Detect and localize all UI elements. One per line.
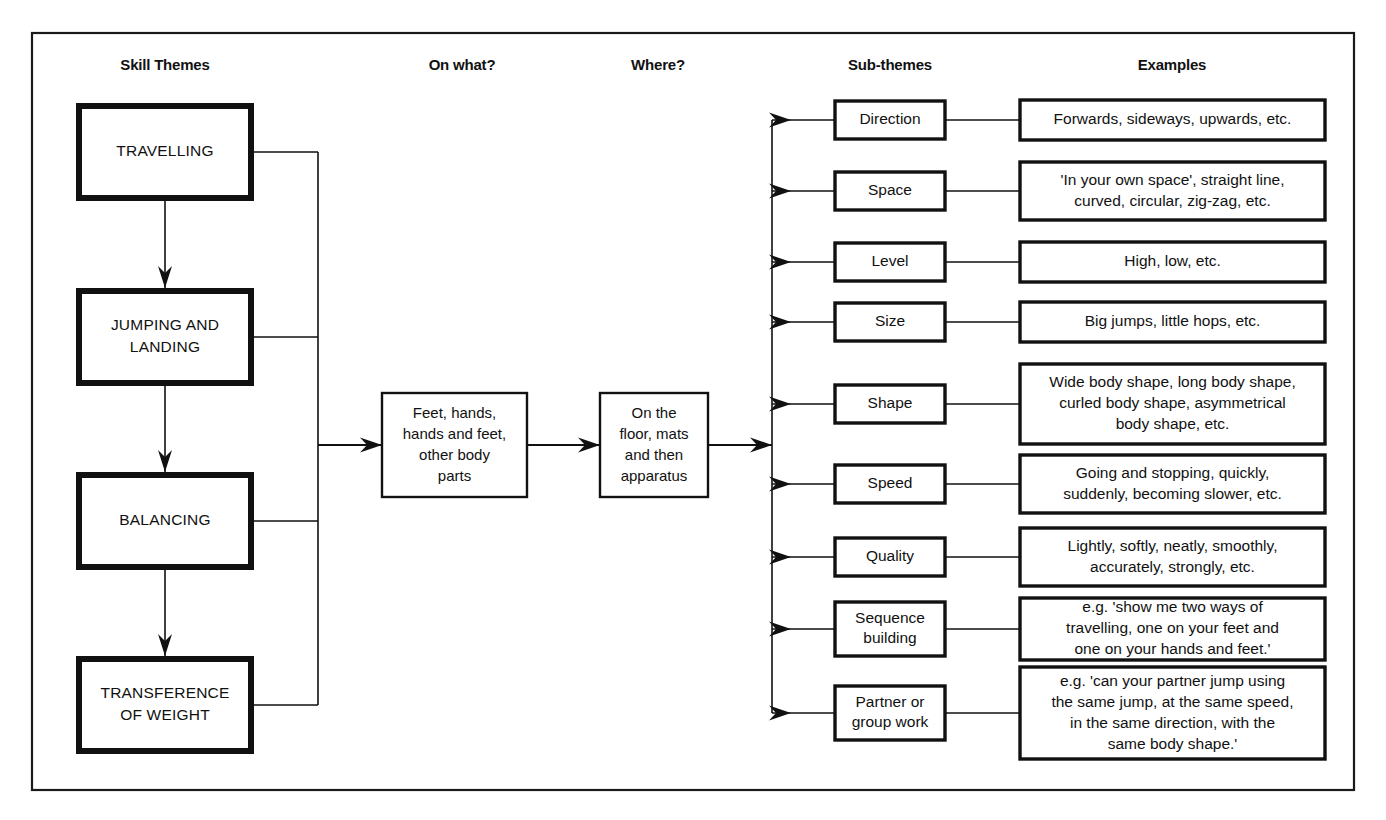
sub-theme-label-direction-line: Direction [859, 110, 920, 127]
example-label-shape-line: body shape, etc. [1116, 415, 1230, 432]
skill-theme-label-balancing: BALANCING [119, 511, 210, 528]
example-label-shape-line: Wide body shape, long body shape, [1049, 373, 1295, 390]
on-what-label-line: hands and feet, [403, 424, 506, 441]
example-label-partner-or-group-work-line: the same jump, at the same speed, [1051, 693, 1293, 710]
sub-theme-label-quality: Quality [866, 547, 914, 564]
skill-theme-box-transference-of-weight[interactable] [79, 659, 251, 751]
example-label-quality-line: accurately, strongly, etc. [1090, 558, 1255, 575]
on-what-label-line: Feet, hands, [413, 403, 496, 420]
example-label-partner-or-group-work-line: in the same direction, with the [1070, 714, 1275, 731]
skill-theme-box-jumping-and-landing[interactable] [79, 291, 251, 383]
sub-theme-label-sequence-building-line: Sequence [855, 609, 925, 626]
sub-theme-label-size: Size [875, 312, 905, 329]
sub-theme-label-size-line: Size [875, 312, 905, 329]
example-label-speed-line: Going and stopping, quickly, [1076, 464, 1270, 481]
example-label-sequence-building-line: e.g. 'show me two ways of [1082, 598, 1263, 615]
sub-theme-label-level-line: Level [871, 252, 908, 269]
sub-theme-label-direction: Direction [859, 110, 920, 127]
example-label-shape-line: curled body shape, asymmetrical [1059, 394, 1286, 411]
example-label-quality-line: Lightly, softly, neatly, smoothly, [1068, 537, 1278, 554]
column-header-examples: Examples [1138, 56, 1206, 73]
sub-theme-label-quality-line: Quality [866, 547, 914, 564]
sub-theme-label-partner-or-group-work-line: Partner or [856, 693, 925, 710]
sub-theme-boxes: DirectionSpaceLevelSizeShapeSpeedQuality… [835, 101, 945, 740]
column-header-skill-themes: Skill Themes [120, 56, 209, 73]
on-what-label-line: parts [438, 466, 471, 483]
skill-theme-label-jumping-and-landing-line: JUMPING AND [111, 316, 219, 333]
column-headers: Skill ThemesOn what?Where?Sub-themesExam… [120, 56, 1206, 73]
where-label-line: floor, mats [619, 424, 688, 441]
where-label-line: apparatus [621, 466, 688, 483]
example-label-size-line: Big jumps, little hops, etc. [1085, 312, 1261, 329]
example-label-size: Big jumps, little hops, etc. [1085, 312, 1261, 329]
skill-theme-label-balancing-line: BALANCING [119, 511, 210, 528]
example-boxes: Forwards, sideways, upwards, etc.'In you… [1020, 100, 1325, 759]
sub-theme-label-shape-line: Shape [868, 394, 913, 411]
skill-theme-label-travelling: TRAVELLING [116, 142, 213, 159]
example-label-speed-line: suddenly, becoming slower, etc. [1063, 485, 1282, 502]
diagram-canvas: Skill ThemesOn what?Where?Sub-themesExam… [0, 0, 1386, 820]
sub-theme-label-shape: Shape [868, 394, 913, 411]
skill-theme-label-jumping-and-landing-line: LANDING [130, 338, 200, 355]
sub-theme-label-level: Level [871, 252, 908, 269]
skill-theme-label-transference-of-weight-line: TRANSFERENCE [101, 684, 230, 701]
skill-theme-label-transference-of-weight-line: OF WEIGHT [120, 706, 210, 723]
example-label-partner-or-group-work-line: e.g. 'can your partner jump using [1060, 672, 1285, 689]
example-label-partner-or-group-work-line: same body shape.' [1108, 735, 1238, 752]
column-header-on-what: On what? [429, 56, 496, 73]
example-label-direction-line: Forwards, sideways, upwards, etc. [1054, 110, 1292, 127]
sub-theme-label-partner-or-group-work-line: group work [852, 713, 929, 730]
where-label-line: On the [631, 403, 676, 420]
example-label-sequence-building-line: travelling, one on your feet and [1066, 619, 1279, 636]
skill-theme-label-travelling-line: TRAVELLING [116, 142, 213, 159]
sub-theme-label-sequence-building-line: building [863, 629, 916, 646]
skill-themes-diagram: Skill ThemesOn what?Where?Sub-themesExam… [0, 0, 1386, 820]
example-label-sequence-building: e.g. 'show me two ways oftravelling, one… [1066, 598, 1279, 657]
column-header-where: Where? [631, 56, 685, 73]
sub-theme-label-speed-line: Speed [868, 474, 913, 491]
on-what-label-line: other body [419, 445, 490, 462]
sub-theme-label-space: Space [868, 181, 912, 198]
example-label-space-line: 'In your own space', straight line, [1061, 171, 1285, 188]
sub-theme-label-space-line: Space [868, 181, 912, 198]
sub-theme-label-speed: Speed [868, 474, 913, 491]
example-label-space-line: curved, circular, zig-zag, etc. [1074, 192, 1270, 209]
where-label-line: and then [625, 445, 683, 462]
example-label-direction: Forwards, sideways, upwards, etc. [1054, 110, 1292, 127]
example-label-level: High, low, etc. [1124, 252, 1221, 269]
example-label-level-line: High, low, etc. [1124, 252, 1221, 269]
column-header-sub-themes: Sub-themes [848, 56, 932, 73]
example-label-sequence-building-line: one on your hands and feet.' [1075, 640, 1271, 657]
